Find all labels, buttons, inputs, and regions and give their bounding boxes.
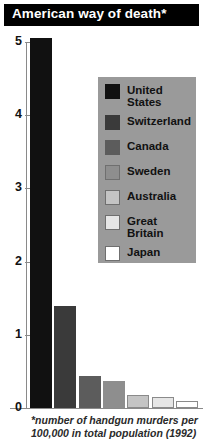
legend-swatch-icon	[105, 115, 120, 130]
bar-united-states	[30, 38, 52, 408]
bar-switzerland	[54, 306, 76, 408]
page-title: American way of death*	[12, 6, 167, 21]
bar-australia	[127, 395, 149, 408]
legend-item[interactable]: Japan	[98, 245, 196, 270]
legend-item-label: Canada	[127, 139, 169, 153]
footnote-line: 100,000 in total population (1992)	[31, 427, 201, 440]
bar-great-britain	[152, 397, 174, 408]
legend-swatch-icon	[105, 215, 120, 230]
chart-footnote: *number of handgun murders per100,000 in…	[31, 414, 201, 439]
bar-canada	[79, 376, 101, 408]
legend-item-label: Sweden	[127, 164, 170, 178]
legend-swatch-icon	[105, 140, 120, 155]
legend-item-label: United States	[127, 83, 163, 108]
legend-swatch-icon	[105, 246, 120, 261]
chart-figure: American way of death* 012345 United Sta…	[0, 0, 203, 448]
legend-item[interactable]: United States	[98, 83, 196, 114]
legend-item-label: Switzerland	[127, 114, 191, 128]
bar-sweden	[103, 381, 125, 408]
legend-item[interactable]: Sweden	[98, 164, 196, 189]
plot-area: 012345 United StatesSwitzerlandCanadaSwe…	[0, 30, 203, 412]
chart-legend: United StatesSwitzerlandCanadaSwedenAust…	[98, 77, 196, 263]
legend-swatch-icon	[105, 165, 120, 180]
legend-item[interactable]: Great Britain	[98, 214, 196, 245]
bar-japan	[176, 401, 198, 408]
legend-swatch-icon	[105, 190, 120, 205]
legend-item[interactable]: Australia	[98, 189, 196, 214]
legend-item[interactable]: Canada	[98, 139, 196, 164]
legend-item-label: Australia	[127, 189, 176, 203]
legend-item[interactable]: Switzerland	[98, 114, 196, 139]
legend-item-label: Great Britain	[127, 214, 163, 239]
legend-swatch-icon	[105, 84, 120, 99]
chart-title-bar: American way of death*	[4, 4, 199, 26]
legend-item-label: Japan	[127, 245, 160, 259]
footnote-line: *number of handgun murders per	[31, 414, 201, 427]
